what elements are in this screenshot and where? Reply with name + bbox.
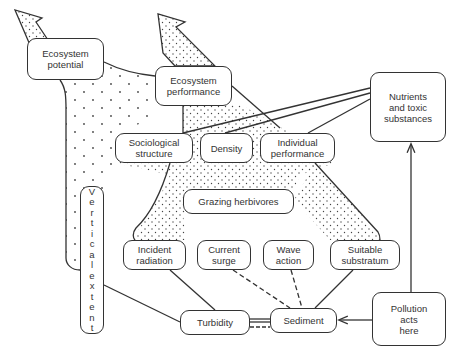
vertical-letter: c	[90, 239, 95, 250]
incident-radiation-node: Incident radiation	[123, 240, 186, 270]
current-surge-node: Current surge	[197, 240, 251, 270]
turbidity-node: Turbidity	[180, 310, 250, 335]
sediment-node: Sediment	[270, 308, 337, 333]
wave-action-node: Wave action	[263, 240, 314, 270]
performance-funnel	[115, 104, 335, 240]
vertical-letter: e	[89, 197, 94, 208]
performance-arrow	[158, 14, 215, 66]
ecosystem-performance-node: Ecosystem performance	[155, 66, 232, 106]
nutrients-toxic-substances-node: Nutrients and toxic substances	[370, 72, 446, 142]
individual-performance-node: Individual performance	[260, 133, 335, 163]
vertical-letter: l	[91, 260, 93, 271]
funnel-right-dots	[294, 163, 380, 240]
suitable-substratum-node: Suitable substratum	[330, 240, 400, 270]
vertical-extent-node: V e r t i c a l e x t e n t	[80, 186, 104, 334]
vertical-letter: t	[91, 323, 94, 334]
pollution-acts-here-node: Pollution acts here	[372, 292, 446, 346]
vertical-letter: t	[91, 218, 94, 229]
density-node: Density	[200, 133, 253, 163]
sociological-structure-node: Sociological structure	[115, 133, 193, 163]
grazing-herbivores-node: Grazing herbivores	[183, 189, 294, 214]
vertical-letter: e	[89, 302, 94, 313]
vertical-letter: x	[90, 281, 95, 292]
ecosystem-potential-node: Ecosystem potential	[27, 38, 104, 80]
